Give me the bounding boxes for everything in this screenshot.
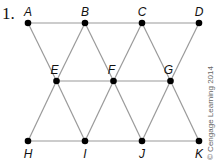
edge-EI [57, 81, 86, 141]
edge-FJ [114, 81, 143, 141]
vertex-F [110, 78, 117, 85]
vertex-D [196, 20, 203, 27]
vertex-label-K: K [195, 147, 204, 161]
edge-IF [85, 81, 114, 141]
vertex-A [25, 20, 32, 27]
vertex-C [139, 20, 146, 27]
vertex-E [53, 78, 60, 85]
vertex-K [196, 138, 203, 145]
vertex-I [82, 138, 89, 145]
edge-EB [57, 23, 86, 81]
vertices-group [25, 20, 203, 145]
edge-JG [142, 81, 171, 141]
edge-GD [171, 23, 200, 81]
vertex-label-H: H [24, 147, 33, 161]
vertex-label-A: A [23, 5, 32, 19]
vertex-label-E: E [50, 63, 59, 77]
vertex-label-I: I [83, 147, 87, 161]
vertex-label-D: D [195, 5, 204, 19]
vertex-label-F: F [108, 63, 116, 77]
edge-FC [114, 23, 143, 81]
edge-GK [171, 81, 200, 141]
vertex-G [167, 78, 174, 85]
vertex-label-G: G [164, 63, 173, 77]
vertex-label-J: J [138, 147, 146, 161]
vertex-label-B: B [81, 5, 89, 19]
vertex-H [25, 138, 32, 145]
vertex-B [82, 20, 89, 27]
graph-diagram: ABCDEFGHIJK [0, 0, 219, 165]
vertex-J [139, 138, 146, 145]
vertex-label-C: C [138, 5, 147, 19]
copyright-notice: © Cengage Learning 2014 [206, 66, 215, 160]
edge-HE [28, 81, 57, 141]
